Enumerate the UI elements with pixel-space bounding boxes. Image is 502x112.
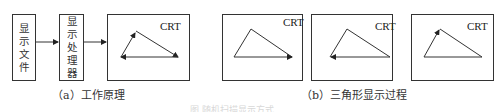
caption-b: （b）三角形显示过程	[301, 86, 407, 102]
triangle-b3	[424, 29, 482, 57]
caption-a: （a）工作原理	[52, 86, 125, 102]
figure-caption: 图 随机扫描显示方式	[190, 103, 274, 112]
triangle-b1	[234, 29, 292, 57]
triangle-a	[121, 31, 178, 57]
triangle-b2	[330, 29, 390, 57]
